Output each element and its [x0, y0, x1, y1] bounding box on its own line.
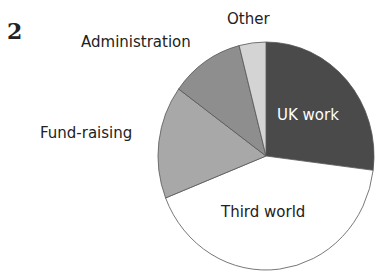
label-administration: Administration	[81, 33, 191, 51]
label-other: Other	[227, 10, 270, 28]
label-third-world: Third world	[221, 203, 305, 221]
label-fund-raising: Fund-raising	[40, 124, 132, 142]
label-uk-work: UK work	[277, 106, 339, 124]
